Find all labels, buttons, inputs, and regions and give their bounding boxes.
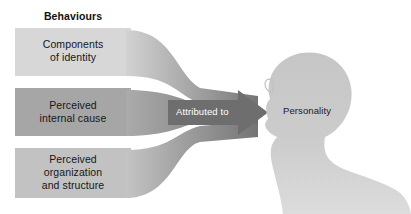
box-label-perceived-internal-cause: Perceived internal cause (15, 99, 131, 125)
personality-silhouette-shape (265, 53, 411, 214)
attribution-diagram: Behaviours Components of identity Percei… (0, 0, 411, 214)
box-label-perceived-organization-and-structure: Perceived organization and structure (15, 153, 131, 191)
behaviours-heading: Behaviours (15, 10, 131, 23)
box-label-components-of-identity: Components of identity (15, 38, 131, 64)
attributed-to-label: Attributed to (176, 106, 258, 118)
personality-label: Personality (283, 105, 363, 117)
